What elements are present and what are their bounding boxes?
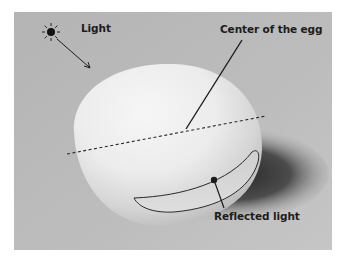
center-of-egg-label: Center of the egg <box>220 23 322 35</box>
light-label: Light <box>81 22 111 34</box>
diagram-panel: Light Center of the egg Reflected light <box>14 12 332 250</box>
sun-icon <box>42 23 60 41</box>
reflected-light-label: Reflected light <box>214 210 300 222</box>
